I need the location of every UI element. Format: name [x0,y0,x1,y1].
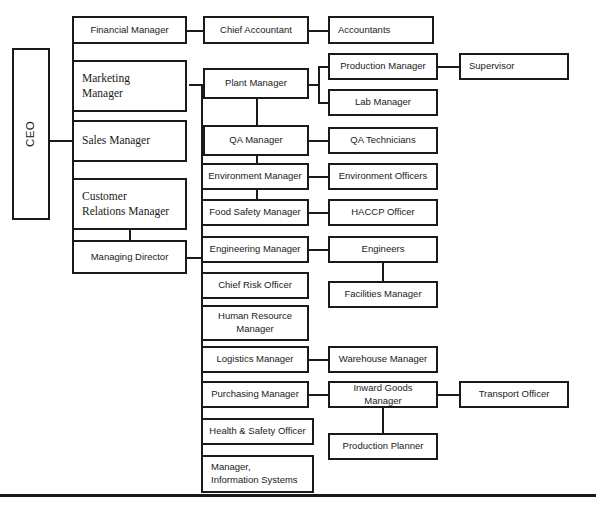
node-engineers: Engineers [328,236,438,263]
connector-inward-to-planner [382,408,384,433]
node-purchasing-manager: Purchasing Manager [201,381,309,408]
node-label-lab-manager: Lab Manager [355,96,411,109]
node-label-manager-information-systems: Manager, Information Systems [211,461,298,486]
node-label-chief-accountant: Chief Accountant [220,24,292,37]
node-label-environment-manager: Environment Manager [208,170,301,183]
node-sales-manager: Sales Manager [72,120,187,162]
node-label-facilities-manager: Facilities Manager [344,288,421,301]
node-label-managing-director: Managing Director [91,251,169,264]
connector-qa-to-qatech [309,140,328,142]
node-transport-officer: Transport Officer [459,381,569,408]
node-marketing-manager: Marketing Manager [72,60,187,112]
node-label-financial-manager: Financial Manager [90,24,168,37]
node-label-haccp-officer: HACCP Officer [351,206,415,219]
node-human-resource-manager: Human Resource Manager [201,305,309,341]
node-managing-director: Managing Director [72,240,187,274]
connector-crm-to-md [129,230,131,240]
connector-log-to-warehouse [309,359,328,361]
node-label-accountants: Accountants [338,24,390,37]
node-label-inward-goods-manager: Inward Goods Manager [334,382,432,407]
node-label-supervisor: Supervisor [469,60,514,73]
bottom-divider-rule [0,494,596,497]
connector-qa-to-env-vert [256,156,258,163]
node-label-qa-technicians: QA Technicians [350,134,415,147]
node-inward-goods-manager: Inward Goods Manager [328,381,438,408]
node-label-sales-manager: Sales Manager [82,133,150,148]
node-label-production-manager: Production Manager [340,60,426,73]
node-chief-risk-officer: Chief Risk Officer [201,272,309,299]
node-label-warehouse-manager: Warehouse Manager [339,353,427,366]
node-environment-officers: Environment Officers [328,163,438,190]
org-chart: CEOFinancial ManagerMarketing ManagerSal… [0,0,596,513]
node-production-manager: Production Manager [328,53,438,80]
node-label-qa-manager: QA Manager [229,134,282,147]
connector-chief-acct-to-accts [309,30,328,32]
connector-pur-to-inward [309,394,328,396]
node-production-planner: Production Planner [328,433,438,460]
connector-production-to-supervisor [438,66,459,68]
node-facilities-manager: Facilities Manager [328,281,438,308]
node-qa-manager: QA Manager [203,125,309,156]
node-engineering-manager: Engineering Manager [201,236,309,263]
node-label-purchasing-manager: Purchasing Manager [211,388,299,401]
connector-bracket-to-lab [318,102,328,104]
node-health-safety-officer: Health & Safety Officer [201,418,314,445]
node-lab-manager: Lab Manager [328,89,438,116]
node-customer-relations-manager: Customer Relations Manager [72,178,187,230]
node-ceo: CEO [12,48,50,220]
connector-trunk-to-plant [189,84,203,86]
node-label-production-planner: Production Planner [343,440,424,453]
connector-prod-lab-bracket [318,66,320,103]
node-label-plant-manager: Plant Manager [225,77,287,90]
connector-plant-to-qa-vert [256,99,258,125]
node-financial-manager: Financial Manager [72,16,187,44]
node-supervisor: Supervisor [459,53,569,80]
node-warehouse-manager: Warehouse Manager [328,346,438,373]
node-food-safety-manager: Food Safety Manager [201,199,309,226]
node-label-logistics-manager: Logistics Manager [216,353,293,366]
node-label-food-safety-manager: Food Safety Manager [209,206,300,219]
node-label-environment-officers: Environment Officers [339,170,428,183]
node-label-transport-officer: Transport Officer [479,388,550,401]
node-plant-manager: Plant Manager [203,68,309,99]
connector-engineers-to-facilities [382,263,384,281]
connector-env-to-envoff [309,176,328,178]
node-label-health-safety-officer: Health & Safety Officer [209,425,305,438]
connector-ceo-stem [50,140,72,142]
node-environment-manager: Environment Manager [201,163,309,190]
node-label-engineers: Engineers [362,243,405,256]
connector-food-to-haccp [309,212,328,214]
node-label-customer-relations-manager: Customer Relations Manager [82,189,169,219]
connector-bracket-to-production [318,66,328,68]
connector-eng-to-engineers [309,249,328,251]
node-label-ceo: CEO [23,121,38,147]
node-chief-accountant: Chief Accountant [203,16,309,44]
node-label-human-resource-manager: Human Resource Manager [218,310,292,335]
node-haccp-officer: HACCP Officer [328,199,438,226]
connector-inward-to-transport [438,394,459,396]
node-qa-technicians: QA Technicians [328,127,438,154]
node-manager-information-systems: Manager, Information Systems [201,455,314,493]
node-label-engineering-manager: Engineering Manager [210,243,301,256]
node-accountants: Accountants [328,16,434,44]
connector-md-to-trunk [187,257,201,259]
connector-financial-to-chief-acct [187,30,203,32]
node-label-chief-risk-officer: Chief Risk Officer [218,279,292,292]
node-label-marketing-manager: Marketing Manager [82,71,130,101]
connector-env-to-food-vert [256,190,258,199]
node-logistics-manager: Logistics Manager [201,346,309,373]
